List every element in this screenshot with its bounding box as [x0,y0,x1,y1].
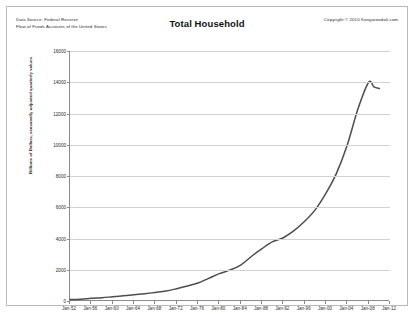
y-tick-mark-14000 [67,82,70,83]
y-tick-label-8000: 8000 [56,174,66,179]
x-tick-label-Jan-88: Jan-88 [254,306,268,311]
x-tick-label-Jan-92: Jan-92 [275,306,289,311]
x-tick-label-Jan-96: Jan-96 [297,306,311,311]
x-tick-mark-Jan-80 [218,301,219,304]
x-axis-tick-labels: Jan-52Jan-56Jan-60Jan-64Jan-68Jan-72Jan-… [69,301,389,314]
y-tick-mark-2000 [67,270,70,271]
x-tick-label-Jan-52: Jan-52 [62,306,76,311]
gridline-y-12000 [70,114,390,115]
x-tick-mark-Jan-64 [133,301,134,304]
y-axis-tick-labels: 0200040006000800010000120001400016000 [31,51,66,301]
y-tick-mark-16000 [67,51,70,52]
x-tick-label-Jan-04: Jan-04 [339,306,353,311]
y-tick-label-2000: 2000 [56,267,66,272]
x-tick-mark-Jan-88 [261,301,262,304]
chart-title: Total Household [7,18,407,29]
x-tick-mark-Jan-68 [154,301,155,304]
gridline-y-16000 [70,51,390,52]
y-tick-label-6000: 6000 [56,205,66,210]
x-tick-mark-Jan-08 [368,301,369,304]
gridline-y-4000 [70,239,390,240]
x-tick-label-Jan-80: Jan-80 [211,306,225,311]
x-tick-mark-Jan-04 [346,301,347,304]
y-tick-mark-12000 [67,114,70,115]
y-tick-mark-6000 [67,207,70,208]
y-tick-label-12000: 12000 [53,111,66,116]
gridline-y-10000 [70,145,390,146]
x-tick-mark-Jan-92 [282,301,283,304]
y-tick-mark-4000 [67,239,70,240]
x-tick-mark-Jan-12 [389,301,390,304]
y-tick-mark-8000 [67,176,70,177]
x-tick-label-Jan-72: Jan-72 [169,306,183,311]
x-tick-label-Jan-84: Jan-84 [233,306,247,311]
gridline-y-2000 [70,270,390,271]
y-tick-mark-10000 [67,145,70,146]
gridline-y-8000 [70,176,390,177]
plot-area [69,51,389,301]
x-tick-mark-Jan-00 [325,301,326,304]
x-tick-label-Jan-64: Jan-64 [126,306,140,311]
x-tick-mark-Jan-52 [69,301,70,304]
x-tick-label-Jan-12: Jan-12 [382,306,396,311]
x-tick-mark-Jan-56 [90,301,91,304]
y-tick-label-10000: 10000 [53,142,66,147]
x-tick-mark-Jan-76 [197,301,198,304]
y-tick-label-0: 0 [63,299,66,304]
x-tick-label-Jan-00: Jan-00 [318,306,332,311]
x-tick-label-Jan-60: Jan-60 [105,306,119,311]
y-tick-label-16000: 16000 [53,49,66,54]
x-tick-label-Jan-68: Jan-68 [147,306,161,311]
x-tick-label-Jan-56: Jan-56 [83,306,97,311]
y-tick-label-4000: 4000 [56,236,66,241]
x-tick-mark-Jan-60 [112,301,113,304]
x-tick-mark-Jan-72 [176,301,177,304]
x-tick-mark-Jan-84 [240,301,241,304]
gridline-y-14000 [70,82,390,83]
y-tick-label-14000: 14000 [53,80,66,85]
chart-card: Data Source: Federal Reserve Flow of Fun… [6,6,408,306]
gridline-y-6000 [70,207,390,208]
x-tick-label-Jan-76: Jan-76 [190,306,204,311]
x-tick-label-Jan-08: Jan-08 [361,306,375,311]
x-tick-mark-Jan-96 [304,301,305,304]
